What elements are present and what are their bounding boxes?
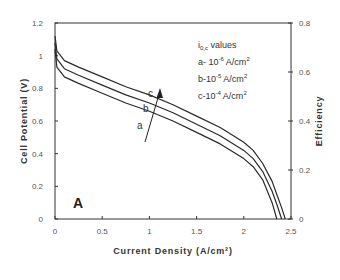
legend-title: i0,c values <box>198 40 237 51</box>
x-tick-label: 0 <box>53 227 58 236</box>
x-tick-label: 2.5 <box>285 227 297 236</box>
legend: i0,c values a- 10-6 A/cm2 b-10-5 A/cm2 c… <box>198 40 250 101</box>
y2-tick-label: 0.6 <box>299 68 311 77</box>
panel-label: A <box>73 195 83 211</box>
legend-entry-a: a- 10-6 A/cm2 <box>198 56 250 67</box>
x-tick-label: 1 <box>147 227 152 236</box>
x-tick-label: 1.5 <box>191 227 203 236</box>
y-tick-label: 1.2 <box>32 19 44 28</box>
x-tick-label: 2 <box>242 227 247 236</box>
curve-c <box>55 36 285 219</box>
curve-label-a: a <box>137 120 143 131</box>
y-tick-label: 0.4 <box>32 150 44 159</box>
curve-b <box>55 43 282 219</box>
y-axis-ticks: 00.20.40.60.811.2 <box>32 19 58 224</box>
y-tick-label: 0.2 <box>32 182 44 191</box>
curves <box>55 36 285 219</box>
y-tick-label: 0 <box>39 215 44 224</box>
legend-entry-c: c-10-4 A/cm2 <box>198 90 247 101</box>
polarization-chart: 00.20.40.60.811.2 00.20.40.60.8 00.511.5… <box>0 0 340 280</box>
y2-tick-label: 0.4 <box>299 117 311 126</box>
y2-tick-label: 0 <box>299 215 304 224</box>
legend-entry-b: b-10-5 A/cm2 <box>198 73 248 84</box>
curve-label-c: c <box>148 88 153 99</box>
y2-axis-title: Efficiency <box>314 96 324 147</box>
y2-tick-label: 0.2 <box>299 166 311 175</box>
x-tick-label: 0.5 <box>97 227 109 236</box>
y-tick-label: 1 <box>39 52 44 61</box>
y-tick-label: 0.6 <box>32 117 44 126</box>
curve-label-b: b <box>143 103 149 114</box>
y-axis-title: Cell Potential (V) <box>19 78 29 164</box>
y2-tick-label: 0.8 <box>299 19 311 28</box>
y-tick-label: 0.8 <box>32 84 44 93</box>
x-axis-title: Current Density (A/cm²) <box>113 246 232 256</box>
